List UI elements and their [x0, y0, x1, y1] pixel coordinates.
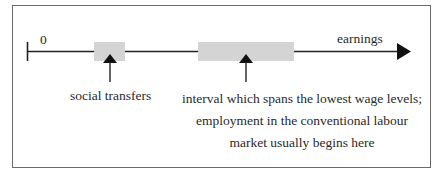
axis-arrowhead-icon [397, 43, 411, 60]
axis-end-label: earnings [337, 31, 383, 47]
interval-description-line-2: employment in the conventional labour [163, 110, 441, 132]
interval-description-line-1: interval which spans the lowest wage lev… [163, 88, 441, 110]
social-transfers-label: social transfers [70, 88, 151, 104]
interval-description-line-3: market usually begins here [163, 132, 441, 154]
axis-origin-label: 0 [40, 32, 47, 48]
interval-description: interval which spans the lowest wage lev… [163, 88, 441, 154]
